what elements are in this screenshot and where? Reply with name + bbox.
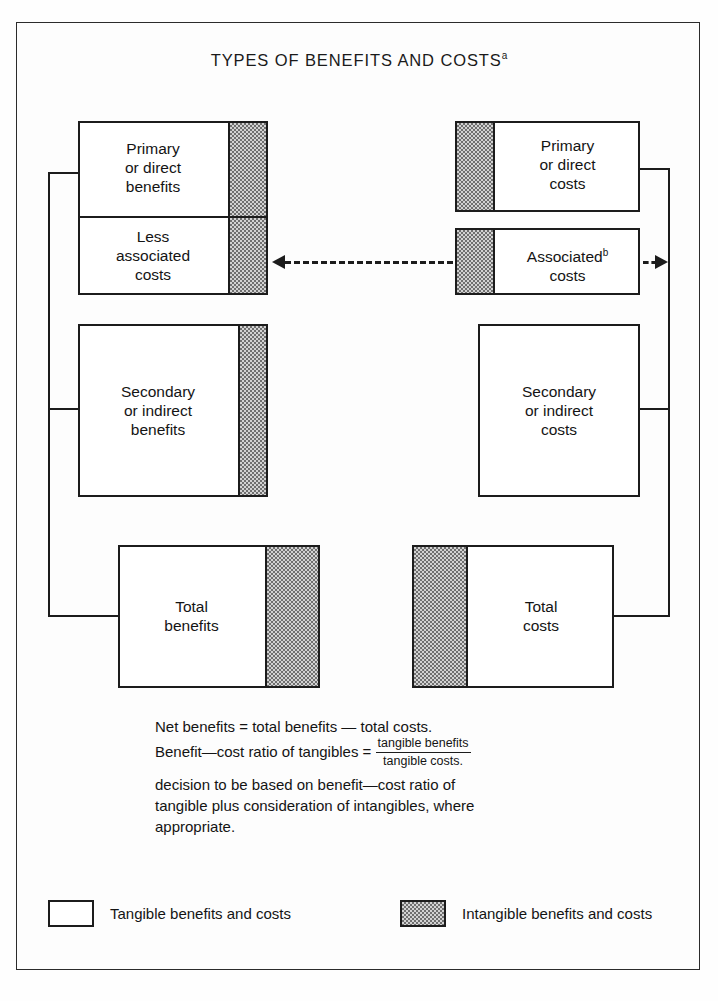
dashed-flow-associated-costs — [285, 261, 453, 264]
intangible-region-secondary-benefits — [238, 324, 268, 497]
connector-left-to-secondary-benefits — [48, 408, 80, 410]
connector-left-to-primary-benefits — [48, 172, 80, 174]
page-title: TYPES OF BENEFITS AND COSTSa — [0, 50, 718, 70]
intangible-region-associated-costs — [455, 228, 495, 295]
note-decision-line3: appropriate. — [155, 816, 605, 837]
arrow-right-icon — [655, 255, 668, 269]
figure-page: TYPES OF BENEFITS AND COSTSa Primary or … — [0, 0, 718, 1001]
note-benefit-cost-ratio-prefix: Benefit—cost ratio of tangibles = — [155, 743, 376, 760]
tangible-swatch-icon — [48, 900, 94, 927]
connector-right-to-primary-costs — [638, 168, 670, 170]
note-decision-line2: tangible plus consideration of intangibl… — [155, 795, 605, 816]
connector-left-spine — [48, 172, 50, 617]
connector-right-spine — [668, 168, 670, 617]
intangible-region-total-benefits — [265, 545, 320, 688]
legend-label-tangible: Tangible benefits and costs — [110, 905, 291, 922]
fraction-numerator: tangible benefits — [376, 736, 471, 753]
legend-item-intangible: Intangible benefits and costs — [400, 900, 652, 927]
page-title-superscript: a — [502, 50, 508, 61]
note-benefit-cost-ratio: Benefit—cost ratio of tangibles = tangib… — [155, 737, 605, 770]
page-title-text: TYPES OF BENEFITS AND COSTS — [211, 51, 502, 69]
intangible-region-total-costs — [412, 545, 468, 688]
intangible-region-primary-costs — [455, 121, 495, 212]
connector-right-to-total-costs — [612, 615, 670, 617]
legend-item-tangible: Tangible benefits and costs — [48, 900, 291, 927]
arrow-left-icon — [272, 255, 285, 269]
box-secondary-costs — [478, 324, 640, 497]
intangible-region-less-associated-costs — [228, 216, 268, 295]
legend-label-intangible: Intangible benefits and costs — [462, 905, 652, 922]
intangible-swatch-icon — [400, 900, 446, 927]
fraction-tangibles: tangible benefitstangible costs. — [376, 736, 471, 769]
connector-left-to-total-benefits — [48, 615, 120, 617]
notes-block: Net benefits = total benefits — total co… — [155, 716, 605, 837]
connector-right-to-secondary-costs — [638, 408, 670, 410]
fraction-denominator: tangible costs. — [376, 753, 471, 769]
intangible-region-primary-benefits — [228, 121, 268, 218]
note-decision-line1: decision to be based on benefit—cost rat… — [155, 774, 605, 795]
legend: Tangible benefits and costs Intangible b… — [48, 900, 688, 940]
note-net-benefits: Net benefits = total benefits — total co… — [155, 716, 605, 737]
